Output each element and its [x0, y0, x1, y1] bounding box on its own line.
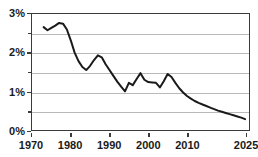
x-axis-tick: [31, 133, 32, 137]
series-layer: [32, 14, 249, 130]
x-axis-label: 1970: [19, 140, 43, 151]
x-axis-tick: [246, 133, 247, 137]
x-axis-label: 2025: [234, 140, 258, 151]
x-axis-label: 1990: [97, 140, 121, 151]
x-axis-label: 2000: [136, 140, 160, 151]
series-line: [44, 23, 246, 119]
x-axis-tick: [187, 133, 188, 137]
y-axis-label: 1%: [9, 87, 25, 98]
x-axis-label: 2010: [175, 140, 199, 151]
x-axis: 197019801990200020102025: [0, 133, 258, 157]
x-axis-label: 1980: [58, 140, 82, 151]
y-axis-label: 2%: [9, 47, 25, 58]
x-axis-tick: [70, 133, 71, 137]
x-axis-tick: [109, 133, 110, 137]
chart-title: [0, 0, 258, 4]
x-axis-tick: [148, 133, 149, 137]
line-chart: 3%2%1%0% 197019801990200020102025: [0, 0, 258, 157]
plot-area: [31, 13, 250, 131]
y-axis-label: 3%: [9, 8, 25, 19]
